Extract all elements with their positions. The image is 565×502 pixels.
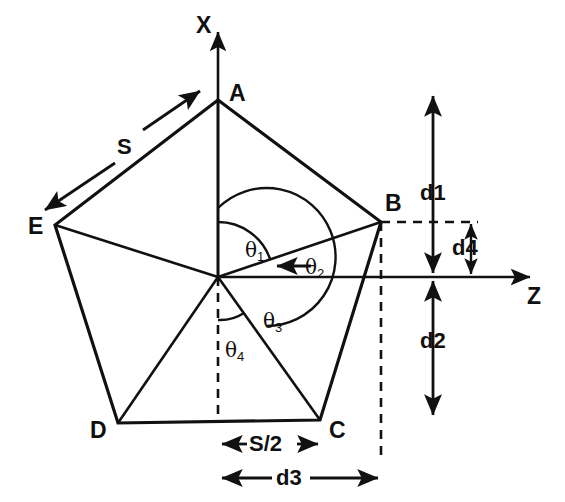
radius-to-B [218,222,381,277]
theta1-symbol: θ [245,238,257,262]
theta3-symbol: θ [263,309,275,333]
angle-label-theta4: θ4 [225,340,244,363]
vertex-label-D: D [90,419,107,442]
theta4-arc [218,313,244,320]
dimension-S-upper-segment [143,91,200,130]
vertex-label-E: E [28,215,43,238]
dimension-label-d4: d4 [452,237,478,259]
vertex-label-C: C [329,419,346,442]
vertex-label-B: B [385,192,402,215]
theta3-subscript: 3 [275,320,282,335]
theta1-subscript: 1 [257,249,264,264]
dimension-label-S-half: S/2 [249,433,282,455]
z-axis-label: Z [527,285,541,308]
dimension-label-S: S [117,136,132,158]
dimension-label-d3: d3 [276,467,302,489]
vertex-label-A: A [229,82,246,105]
radius-to-E [55,225,218,277]
angle-label-theta2: θ2 [305,257,324,280]
theta2-subscript: 2 [317,266,324,281]
pentagon-geometry-figure: X Z A B C D E θ1 θ2 θ3 θ4 S S/2 d1 d2 d3… [0,0,565,502]
theta4-symbol: θ [225,338,237,362]
theta4-subscript: 4 [237,349,244,364]
theta2-symbol: θ [305,255,317,279]
radius-to-D [118,277,218,423]
angle-label-theta1: θ1 [245,240,264,263]
figure-canvas [0,0,565,502]
dimension-label-d1: d1 [420,182,446,204]
x-axis-label: X [196,14,211,37]
angle-label-theta3: θ3 [263,311,282,334]
dimension-label-d2: d2 [420,330,446,352]
